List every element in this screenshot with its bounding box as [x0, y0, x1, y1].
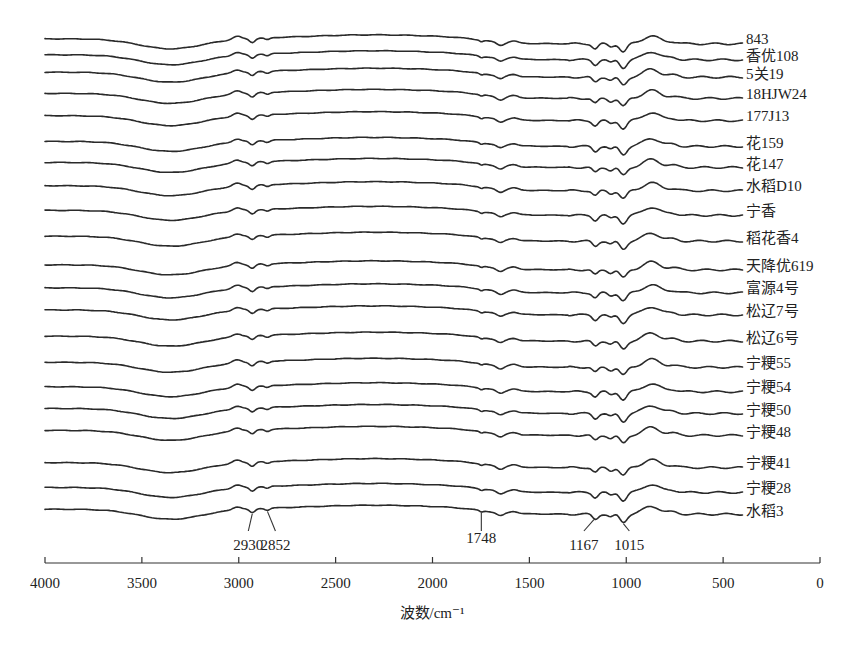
series-label: 宁粳54	[746, 379, 792, 395]
spectrum-line	[45, 51, 743, 69]
spectrum-line	[45, 232, 743, 249]
series-label: 天降优619	[746, 258, 814, 274]
annotation-leader	[584, 520, 594, 531]
x-tick-label: 1500	[514, 575, 544, 591]
series-label: 177J13	[746, 108, 789, 124]
x-tick-label: 3500	[127, 575, 157, 591]
series-label: 18HJW24	[746, 86, 807, 102]
series-label: 稻花香4	[746, 230, 799, 246]
series-label: 宁粳55	[746, 355, 791, 371]
spectrum-line	[45, 426, 743, 443]
series-label: 宁粳50	[746, 402, 791, 418]
series-label: 水稻D10	[746, 178, 802, 194]
series-label: 宁粳28	[746, 480, 791, 496]
spectrum-line	[45, 332, 743, 349]
series-label: 香优108	[746, 48, 799, 64]
spectrum-line	[45, 112, 743, 130]
series-label: 花147	[746, 156, 784, 172]
x-tick-label: 3000	[224, 575, 254, 591]
series-label: 宁粳48	[746, 424, 791, 440]
annotation-label: 1748	[466, 530, 496, 546]
spectrum-line	[45, 158, 743, 175]
spectrum-line	[45, 284, 743, 301]
series-label: 松辽6号	[746, 330, 799, 346]
series-label: 843	[746, 31, 769, 47]
spectrum-line	[45, 404, 743, 422]
annotation-label: 1167	[569, 537, 599, 553]
spectrum-line	[45, 483, 743, 501]
x-tick-label: 2500	[321, 575, 351, 591]
x-tick-label: 4000	[30, 575, 60, 591]
series-label: 宁香	[746, 203, 776, 219]
series-label: 松辽7号	[746, 303, 799, 319]
spectrum-line	[45, 89, 743, 106]
x-tick-label: 2000	[418, 575, 448, 591]
series-label: 水稻3	[746, 503, 784, 519]
ftir-spectra-chart: 843香优1085关1918HJW24177J13花159花147水稻D10宁香…	[0, 0, 860, 652]
annotation-leader	[248, 514, 252, 531]
annotation-label: 2852	[260, 537, 290, 553]
annotation-label: 2930	[233, 537, 263, 553]
spectrum-line	[45, 261, 743, 277]
spectrum-line	[45, 358, 743, 374]
annotation-leader	[267, 511, 275, 531]
spectrum-line	[45, 35, 743, 52]
annotation-label: 1015	[614, 537, 644, 553]
spectrum-line	[45, 458, 743, 475]
series-label: 富源4号	[746, 279, 799, 296]
spectrum-line	[45, 137, 743, 155]
series-label: 宁粳41	[746, 455, 791, 471]
peak-annotations: 29302852174811671015	[233, 511, 644, 553]
spectrum-line	[45, 206, 743, 224]
series-labels: 843香优1085关1918HJW24177J13花159花147水稻D10宁香…	[746, 31, 814, 519]
spectrum-line	[45, 383, 743, 401]
annotation-leader	[623, 524, 629, 531]
series-label: 5关19	[746, 66, 784, 82]
x-tick-label: 1000	[611, 575, 641, 591]
spectrum-line	[45, 182, 743, 199]
series-label: 花159	[746, 135, 784, 151]
spectrum-line	[45, 68, 743, 85]
x-axis: 40003500300025002000150010005000	[30, 557, 824, 591]
x-axis-label: 波数/cm⁻¹	[400, 605, 465, 621]
x-tick-label: 0	[816, 575, 824, 591]
spectra-curves	[45, 35, 743, 523]
spectrum-line	[45, 505, 743, 522]
x-tick-label: 500	[712, 575, 735, 591]
spectrum-line	[45, 306, 743, 324]
